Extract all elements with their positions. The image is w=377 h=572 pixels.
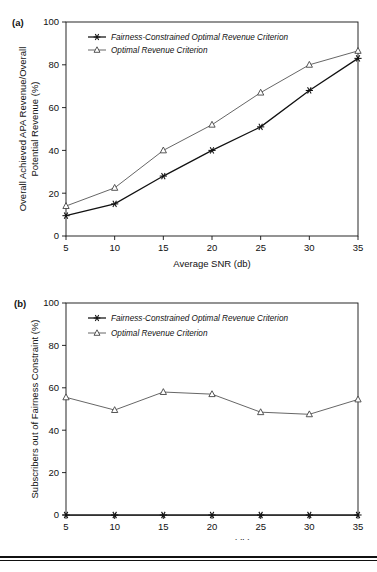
x-tick-label: 30: [304, 242, 315, 253]
y-tick-label: 60: [48, 382, 59, 393]
data-point-triangle: [63, 394, 69, 400]
x-tick-label: 15: [158, 242, 169, 253]
x-tick-label: 10: [109, 521, 120, 532]
legend-label-0: Fairness-Constrained Optimal Revenue Cri…: [111, 314, 288, 323]
data-point-triangle: [355, 396, 361, 402]
data-point-triangle: [160, 389, 166, 395]
x-tick-label: 10: [109, 242, 120, 253]
x-tick-label: 20: [207, 242, 218, 253]
data-point-star: [208, 147, 215, 153]
panel-label-a: (a): [12, 17, 24, 28]
x-tick-label: 35: [353, 242, 364, 253]
y-tick-label: 100: [43, 16, 59, 27]
x-tick-label: 30: [304, 521, 315, 532]
x-tick-label: 5: [63, 521, 68, 532]
data-point-star: [111, 201, 118, 207]
data-point-star: [160, 173, 167, 179]
series-line-1: [66, 51, 358, 206]
panel-label-b: (b): [14, 298, 26, 309]
chart-b-svg: (b)0204060801005101520253035Average SNR …: [0, 285, 377, 540]
x-tick-label: 25: [255, 242, 266, 253]
x-axis-title: Average SNR (db): [173, 537, 250, 540]
data-point-triangle: [160, 147, 166, 153]
data-point-triangle: [209, 121, 215, 127]
data-point-triangle: [112, 184, 118, 190]
x-tick-label: 35: [353, 521, 364, 532]
y-tick-label: 40: [48, 145, 59, 156]
y-tick-label: 20: [48, 467, 59, 478]
legend-label-0: Fairness-Constrained Optimal Revenue Cri…: [111, 33, 288, 42]
x-axis-title: Average SNR (db): [173, 258, 250, 269]
data-point-triangle: [355, 47, 361, 53]
x-tick-label: 5: [63, 242, 68, 253]
x-tick-label: 25: [255, 521, 266, 532]
y-axis-title-line2: Potential Revenue (%): [29, 81, 40, 176]
legend-label-1: Optimal Revenue Criterion: [111, 329, 208, 338]
series-line-0: [66, 58, 358, 215]
chart-panel-b: (b)0204060801005101520253035Average SNR …: [0, 285, 377, 540]
y-tick-label: 100: [43, 297, 59, 308]
y-tick-label: 60: [48, 102, 59, 113]
y-tick-label: 20: [48, 188, 59, 199]
footer-rule-thin: [0, 560, 377, 561]
chart-a-svg: (a)0204060801005101520253035Average SNR …: [0, 0, 377, 285]
chart-panel-a: (a)0204060801005101520253035Average SNR …: [0, 0, 377, 285]
footer-rule-thick: [0, 556, 377, 558]
legend-marker-star: [94, 315, 101, 321]
y-tick-label: 0: [54, 509, 59, 520]
y-tick-label: 40: [48, 425, 59, 436]
plot-frame: [66, 22, 358, 236]
y-tick-label: 80: [48, 59, 59, 70]
y-tick-label: 0: [54, 230, 59, 241]
legend-label-1: Optimal Revenue Criterion: [111, 46, 208, 55]
x-tick-label: 15: [158, 521, 169, 532]
x-tick-label: 20: [207, 521, 218, 532]
y-axis-title: Subscribers out of Fairness Constraint (…: [29, 320, 40, 499]
figure-container: (a)0204060801005101520253035Average SNR …: [0, 0, 377, 572]
data-point-triangle: [258, 89, 264, 95]
y-axis-title-line1: Overall Achieved APA Revenue/Overall: [17, 47, 28, 212]
legend-marker-star: [94, 34, 101, 40]
y-tick-label: 80: [48, 340, 59, 351]
